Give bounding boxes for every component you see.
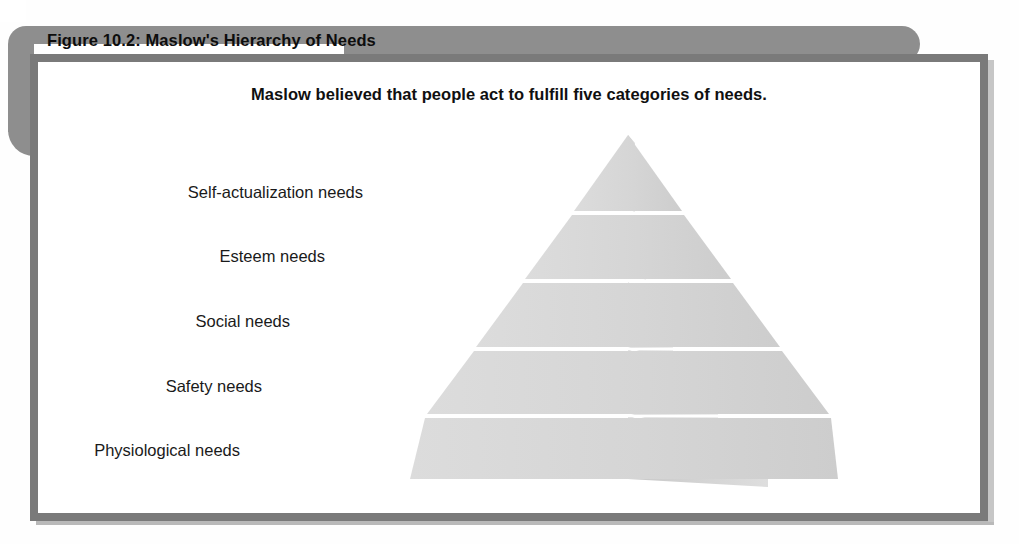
pyramid-front-faces [410,135,838,479]
pyramid-tier-physiological [410,418,838,479]
figure-page: Figure 10.2: Maslow's Hierarchy of Needs… [0,0,1019,544]
pyramid-label-physiological: Physiological needs [94,441,240,460]
pyramid-label-self-actualization: Self-actualization needs [188,183,363,202]
pyramid-graphic [348,135,848,495]
pyramid-label-esteem: Esteem needs [220,247,325,266]
panel-shadow-right [988,60,994,522]
figure-panel: Maslow believed that people act to fulfi… [38,62,980,513]
pyramid-tier-safety [427,351,829,414]
pyramid-label-safety: Safety needs [166,377,262,396]
pyramid-tier-esteem [525,215,731,279]
pyramid-tier-social [476,283,780,347]
pyramid-tier-self-actualization [574,135,682,211]
pyramid-label-social: Social needs [196,312,290,331]
scan-page-corner [0,0,26,22]
pyramid-diagram: Self-actualization needs Esteem needs So… [38,62,980,513]
figure-title: Figure 10.2: Maslow's Hierarchy of Needs [47,31,376,50]
